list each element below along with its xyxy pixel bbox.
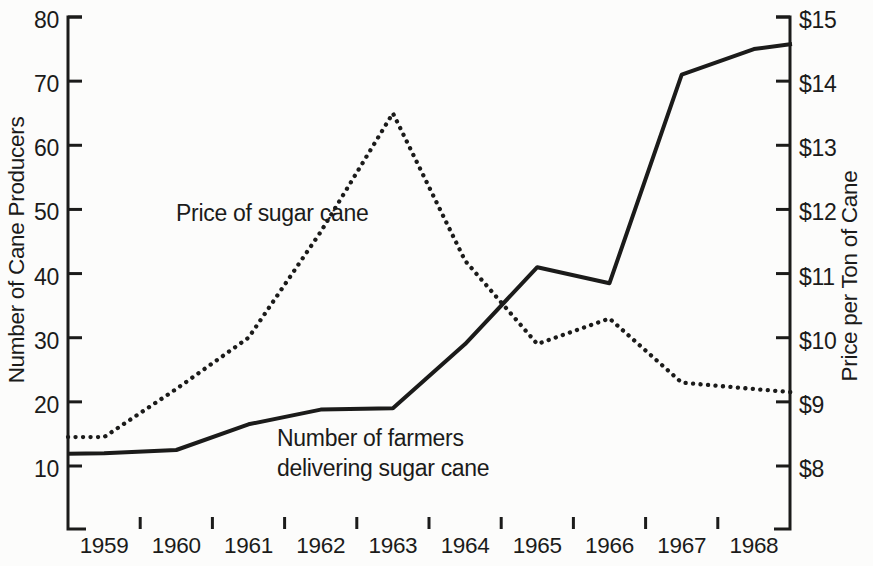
price-line-label: Price of sugar cane xyxy=(176,200,368,226)
left-axis-tick-label: 30 xyxy=(34,328,59,354)
sugar-cane-chart-figure: 8070605040302010$15$14$13$12$11$10$9$819… xyxy=(0,0,873,566)
x-axis-year-label: 1962 xyxy=(296,533,345,558)
x-axis-year-label: 1963 xyxy=(368,533,417,558)
left-axis-tick-label: 70 xyxy=(34,71,59,97)
farmers-line-label: Number of farmers xyxy=(277,425,464,451)
right-axis-title: Price per Ton of Cane xyxy=(837,171,862,382)
x-axis-year-label: 1964 xyxy=(441,533,490,558)
x-axis-year-label: 1965 xyxy=(513,533,562,558)
left-axis-tick-label: 80 xyxy=(34,7,59,33)
x-axis-year-label: 1966 xyxy=(585,533,634,558)
x-axis-year-label: 1959 xyxy=(80,533,129,558)
x-axis-year-label: 1961 xyxy=(224,533,273,558)
left-axis-tick-label: 40 xyxy=(34,264,59,290)
left-axis-tick-label: 10 xyxy=(34,456,59,482)
right-axis-tick-label: $12 xyxy=(799,199,836,225)
farmers-line-label: delivering sugar cane xyxy=(277,455,489,481)
x-axis-year-label: 1968 xyxy=(729,533,778,558)
right-axis-tick-label: $10 xyxy=(799,328,836,354)
price-line xyxy=(68,113,792,437)
left-axis-tick-label: 20 xyxy=(34,392,59,418)
chart-canvas: 8070605040302010$15$14$13$12$11$10$9$819… xyxy=(0,0,873,566)
x-axis-year-label: 1967 xyxy=(657,533,706,558)
left-axis-tick-label: 60 xyxy=(34,135,59,161)
farmers-line xyxy=(68,44,792,454)
x-axis-year-label: 1960 xyxy=(152,533,201,558)
left-axis-title: Number of Cane Producers xyxy=(4,117,29,384)
right-axis-tick-label: $11 xyxy=(799,264,835,290)
right-axis-tick-label: $8 xyxy=(799,456,824,482)
right-axis-tick-label: $9 xyxy=(799,392,824,418)
left-axis-tick-label: 50 xyxy=(34,199,59,225)
right-axis-tick-label: $15 xyxy=(799,7,836,33)
right-axis-tick-label: $14 xyxy=(799,71,837,97)
right-axis-tick-label: $13 xyxy=(799,135,836,161)
